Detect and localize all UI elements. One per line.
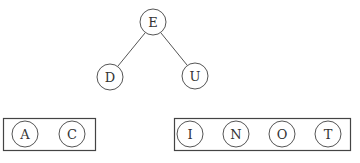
group-node-T: T [315,121,341,147]
edge-E-U [161,33,187,65]
node-label: D [105,70,115,85]
right-group: I N O T [175,119,351,151]
node-label: E [148,15,158,30]
node-label: N [230,127,241,142]
left-group: A C [4,119,96,151]
tree-node-E: E [140,9,166,35]
group-node-N: N [223,121,249,147]
edge-E-D [118,33,145,66]
node-label: O [277,127,288,142]
group-node-A: A [12,121,38,147]
node-label: U [190,69,201,84]
node-label: C [67,127,77,142]
node-label: A [19,127,30,142]
group-node-O: O [269,121,295,147]
diagram-canvas: E D U A C I N O [0,0,360,163]
tree-node-U: U [182,63,208,89]
group-node-C: C [59,121,85,147]
tree-node-D: D [97,64,123,90]
node-label: I [187,127,192,142]
node-label: T [324,127,333,142]
group-node-I: I [177,121,203,147]
